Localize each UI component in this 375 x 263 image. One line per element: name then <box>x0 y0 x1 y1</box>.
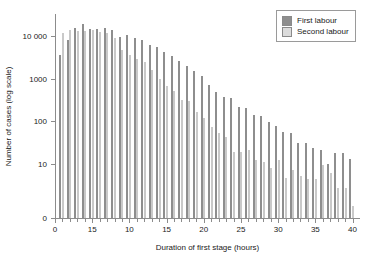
x-tick-40 <box>353 219 354 223</box>
x-tick-20 <box>204 219 205 223</box>
bar-second-labour <box>121 50 123 218</box>
bar-second-labour <box>181 100 183 218</box>
y-tick-label-0: 0 <box>43 214 47 223</box>
x-tick-7 <box>107 219 108 222</box>
bar-second-labour <box>151 70 153 218</box>
x-axis-title: Duration of first stage (hours) <box>55 243 360 252</box>
bar-second-labour <box>159 79 161 219</box>
bar-second-labour <box>188 101 190 218</box>
bar-second-labour <box>136 59 138 218</box>
y-axis-line <box>55 14 56 219</box>
x-tick-2 <box>70 219 71 222</box>
x-tick-24 <box>234 219 235 222</box>
bar-second-labour <box>292 170 294 218</box>
x-tick-27 <box>256 219 257 222</box>
bar-second-labour <box>225 137 227 218</box>
chart-container: 010100100010 000 01510152025303540 Numbe… <box>0 0 375 263</box>
x-tick-17 <box>181 219 182 222</box>
x-tick-12 <box>144 219 145 222</box>
bar-second-labour <box>106 33 108 218</box>
x-tick-label-8: 40 <box>348 225 357 234</box>
y-tick-label-3: 1000 <box>29 74 47 83</box>
legend-label-second-labour: Second labour <box>297 27 349 36</box>
x-tick-9 <box>122 219 123 222</box>
legend-item-first-labour: First labour <box>282 15 349 26</box>
bar-second-labour <box>144 62 146 218</box>
bar-second-labour <box>285 178 287 218</box>
x-tick-6 <box>100 219 101 222</box>
bar-second-labour <box>84 31 86 218</box>
x-tick-3 <box>77 219 78 222</box>
bar-second-labour <box>240 152 242 218</box>
bar-second-labour <box>330 173 332 218</box>
x-tick-14 <box>159 219 160 222</box>
x-tick-36 <box>323 219 324 222</box>
x-tick-18 <box>189 219 190 222</box>
x-tick-33 <box>300 219 301 222</box>
x-tick-29 <box>271 219 272 222</box>
bar-second-labour <box>248 150 250 218</box>
x-tick-25 <box>241 219 242 223</box>
x-tick-35 <box>315 219 316 223</box>
y-tick-label-2: 100 <box>34 117 47 126</box>
x-tick-34 <box>308 219 309 222</box>
legend-label-first-labour: First labour <box>297 16 337 25</box>
legend-swatch-icon-first-labour <box>282 16 292 26</box>
bar-second-labour <box>233 152 235 218</box>
y-axis-title: Number of cases (log scale) <box>2 14 16 219</box>
bar-second-labour <box>92 30 94 218</box>
x-tick-label-3: 15 <box>162 225 171 234</box>
bar-second-labour <box>278 160 280 218</box>
bar-second-labour <box>255 160 257 218</box>
x-tick-5 <box>92 219 93 223</box>
bar-second-labour <box>203 118 205 218</box>
x-tick-37 <box>330 219 331 222</box>
chart-legend: First labour Second labour <box>276 10 356 42</box>
y-tick-4: 10 000 <box>51 36 55 37</box>
y-tick-label-4: 10 000 <box>23 32 47 41</box>
bar-second-labour <box>218 133 220 218</box>
bar-second-labour <box>114 38 116 218</box>
bar-second-labour <box>307 179 309 218</box>
x-tick-11 <box>137 219 138 222</box>
bar-second-labour <box>270 168 272 218</box>
x-tick-19 <box>196 219 197 222</box>
bar-second-labour <box>99 32 101 218</box>
x-tick-22 <box>219 219 220 222</box>
x-tick-13 <box>152 219 153 222</box>
x-tick-label-0: 0 <box>53 225 57 234</box>
x-tick-4 <box>85 219 86 222</box>
y-tick-2: 100 <box>51 121 55 122</box>
x-tick-21 <box>211 219 212 222</box>
legend-item-second-labour: Second labour <box>282 26 349 37</box>
x-tick-label-1: 15 <box>88 225 97 234</box>
x-tick-30 <box>278 219 279 223</box>
bar-second-labour <box>337 188 339 218</box>
bar-second-labour <box>173 91 175 218</box>
x-tick-10 <box>129 219 130 223</box>
x-tick-0 <box>55 219 56 223</box>
y-tick-label-1: 10 <box>38 159 47 168</box>
x-tick-28 <box>263 219 264 222</box>
x-tick-32 <box>293 219 294 222</box>
legend-swatch-icon-second-labour <box>282 27 292 37</box>
bar-second-labour <box>322 165 324 218</box>
x-axis-line <box>55 218 360 219</box>
y-tick-1: 10 <box>51 164 55 165</box>
plot-area: 010100100010 000 01510152025303540 <box>55 14 360 219</box>
y-tick-3: 1000 <box>51 79 55 80</box>
x-tick-38 <box>338 219 339 222</box>
bar-second-labour <box>345 188 347 218</box>
bar-second-labour <box>62 33 64 218</box>
x-tick-label-7: 35 <box>311 225 320 234</box>
bar-second-labour <box>77 31 79 218</box>
bar-second-labour <box>352 206 354 218</box>
x-tick-23 <box>226 219 227 222</box>
bar-second-labour <box>196 112 198 218</box>
x-tick-label-6: 30 <box>274 225 283 234</box>
x-tick-31 <box>286 219 287 222</box>
x-tick-label-4: 20 <box>199 225 208 234</box>
x-tick-label-2: 10 <box>125 225 134 234</box>
bar-second-labour <box>211 127 213 218</box>
x-tick-15 <box>167 219 168 223</box>
